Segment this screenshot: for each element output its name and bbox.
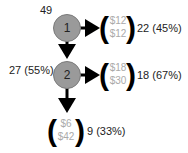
node-1: 1 49: [40, 4, 81, 42]
outcome-1: ( $12 $12 ) 22 (45%): [99, 11, 182, 44]
outcome-2-top-cost: $18: [110, 62, 127, 73]
flow-diagram: 1 49 2 27 (55%) ( $12 $12 ) 22 (45%) ( $…: [0, 0, 188, 153]
node-2-label: 2: [64, 68, 71, 82]
outcome-2: ( $18 $30 ) 18 (67%): [99, 58, 182, 91]
outcome-3-open-bracket: (: [47, 114, 57, 147]
outcome-2-open-bracket: (: [99, 58, 109, 91]
outcome-1-open-bracket: (: [99, 11, 109, 44]
node-1-count: 49: [40, 4, 52, 16]
node-2: 2 27 (55%): [9, 62, 81, 89]
outcome-3-bottom-cost: $42: [58, 131, 75, 142]
outcome-1-top-cost: $12: [110, 15, 127, 26]
node-1-label: 1: [64, 21, 71, 35]
outcome-2-bottom-cost: $30: [110, 75, 127, 86]
outcome-1-close-bracket: ): [126, 11, 136, 44]
outcome-3-top-cost: $6: [60, 118, 72, 129]
outcome-3: ( $6 $42 ) 9 (33%): [47, 114, 126, 147]
outcome-1-bottom-cost: $12: [110, 28, 127, 39]
outcome-3-close-bracket: ): [75, 114, 85, 147]
outcome-2-close-bracket: ): [126, 58, 136, 91]
node-2-count: 27 (55%): [9, 64, 54, 76]
outcome-3-count: 9 (33%): [87, 125, 126, 137]
outcome-1-count: 22 (45%): [137, 22, 182, 34]
outcome-2-count: 18 (67%): [137, 69, 182, 81]
